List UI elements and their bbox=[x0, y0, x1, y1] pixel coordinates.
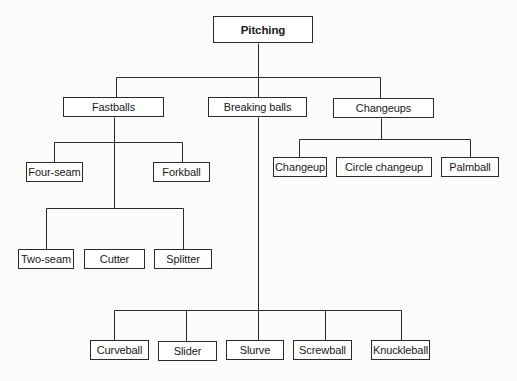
node-changeup: Changeup bbox=[273, 157, 327, 177]
node-label: Knuckleball bbox=[373, 344, 428, 356]
node-curveball: Curveball bbox=[90, 340, 149, 360]
node-label: Fastballs bbox=[92, 101, 135, 113]
node-slurve: Slurve bbox=[226, 340, 284, 360]
node-palmball: Palmball bbox=[441, 157, 499, 177]
node-label: Curveball bbox=[97, 344, 143, 356]
node-label: Circle changeup bbox=[345, 161, 423, 173]
node-slider: Slider bbox=[158, 341, 217, 361]
node-label: Two-seam bbox=[21, 253, 71, 265]
node-label: Screwball bbox=[299, 344, 346, 356]
node-changeups: Changeups bbox=[333, 98, 434, 118]
node-label: Changeup bbox=[275, 161, 325, 173]
pitching-tree-diagram: PitchingFastballsFour-seamForkballTwo-se… bbox=[0, 0, 517, 381]
node-four-seam: Four-seam bbox=[26, 162, 83, 182]
node-screwball: Screwball bbox=[293, 340, 352, 360]
node-knuckleball: Knuckleball bbox=[371, 340, 430, 360]
node-label: Pitching bbox=[241, 24, 286, 36]
node-label: Cutter bbox=[100, 253, 129, 265]
connector-lines bbox=[0, 0, 517, 381]
node-breaking-balls: Breaking balls bbox=[208, 97, 307, 117]
node-splitter: Splitter bbox=[154, 249, 212, 269]
node-label: Changeups bbox=[356, 102, 411, 114]
node-label: Slider bbox=[174, 345, 202, 357]
node-pitching: Pitching bbox=[213, 16, 313, 43]
node-label: Palmball bbox=[449, 161, 490, 173]
node-circle-changeup: Circle changeup bbox=[336, 157, 432, 177]
node-label: Slurve bbox=[240, 344, 271, 356]
node-two-seam: Two-seam bbox=[18, 249, 74, 269]
node-label: Breaking balls bbox=[224, 101, 292, 113]
node-forkball: Forkball bbox=[153, 162, 210, 182]
node-label: Splitter bbox=[166, 253, 199, 265]
node-label: Four-seam bbox=[28, 166, 80, 178]
node-fastballs: Fastballs bbox=[63, 97, 164, 117]
node-label: Forkball bbox=[162, 166, 200, 178]
node-cutter: Cutter bbox=[84, 249, 145, 269]
